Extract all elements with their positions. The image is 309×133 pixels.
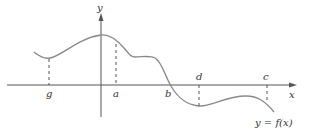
x-axis-arrow-icon [289, 83, 297, 88]
point-label-d: d [196, 71, 202, 82]
point-label-b: b [165, 88, 171, 99]
curve-label: y = f(x) [254, 117, 293, 128]
graph-canvas: y x g a b d c y = f(x) [0, 0, 309, 133]
function-curve [34, 35, 274, 112]
point-label-g: g [46, 88, 52, 99]
y-axis-label: y [96, 2, 103, 13]
point-label-c: c [263, 71, 269, 82]
point-label-a: a [113, 88, 119, 99]
function-graph-figure: y x g a b d c y = f(x) [0, 0, 309, 133]
x-axis-label: x [289, 89, 295, 100]
y-axis-arrow-icon [99, 13, 104, 21]
